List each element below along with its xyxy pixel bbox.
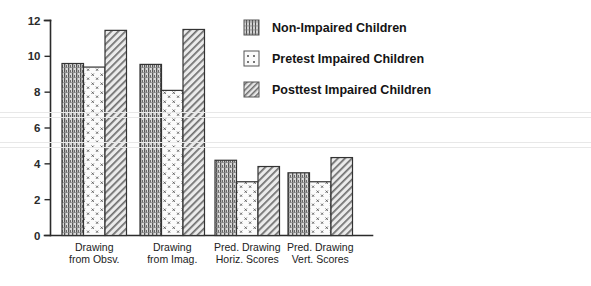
chart-canvas: 024681012 Drawingfrom Obsv.Drawingfrom I…	[0, 0, 591, 286]
legend-label-2: Pretest Impaired Children	[272, 52, 424, 66]
y-tick-label: 4	[34, 158, 41, 170]
y-tick-label: 2	[34, 194, 40, 206]
category-label: Drawing	[75, 241, 114, 253]
scan-artifact-line-4	[0, 147, 591, 148]
bar-3-3	[258, 167, 280, 236]
y-tick-label: 8	[34, 86, 41, 98]
y-tick-label: 10	[28, 50, 41, 62]
bar-1-4	[288, 173, 310, 236]
category-label: from Imag.	[147, 253, 197, 265]
bar-1-3	[215, 160, 237, 235]
bar-3-2	[183, 29, 205, 235]
category-label: Pred. Drawing	[214, 241, 281, 253]
legend-label-3: Posttest Impaired Children	[272, 83, 431, 97]
legend-swatch-2	[244, 51, 259, 66]
category-label: Horiz. Scores	[216, 253, 279, 265]
scan-artifact-line-1	[0, 112, 591, 113]
category-label: from Obsv.	[69, 253, 120, 265]
bar-1-1	[62, 64, 84, 236]
bar-3-1	[105, 30, 127, 235]
bar-1-2	[140, 64, 162, 235]
scan-artifact-line-2	[0, 117, 591, 118]
legend-label-1: Non-Impaired Children	[272, 21, 407, 35]
category-label: Vert. Scores	[292, 253, 349, 265]
y-axis-ticks: 024681012	[28, 15, 51, 242]
legend-swatch-1	[244, 20, 259, 35]
bar-2-1	[84, 67, 106, 235]
bar-2-3	[237, 182, 259, 236]
category-label: Pred. Drawing	[287, 241, 354, 253]
category-labels: Drawingfrom Obsv.Drawingfrom Imag.Pred. …	[69, 241, 354, 265]
y-tick-label: 12	[28, 15, 41, 27]
legend-swatch-3	[244, 82, 259, 97]
bar-2-4	[310, 182, 332, 236]
scan-artifact-line-3	[0, 142, 591, 143]
bar-chart-figure: 024681012 Drawingfrom Obsv.Drawingfrom I…	[0, 0, 591, 286]
category-label: Drawing	[153, 241, 192, 253]
y-tick-label: 0	[34, 230, 40, 242]
y-tick-label: 6	[34, 122, 40, 134]
chart-legend: Non-Impaired ChildrenPretest Impaired Ch…	[244, 20, 431, 97]
bar-3-4	[331, 158, 353, 236]
